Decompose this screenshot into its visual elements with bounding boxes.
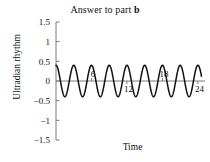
x-tick-label: 24	[195, 84, 205, 94]
x-tick-label: 6	[91, 69, 96, 79]
y-tick-label: 1	[46, 37, 51, 47]
y-tick-label: −1.5	[34, 135, 51, 145]
x-tick-label: 18	[159, 69, 169, 79]
y-tick-label: 0	[46, 76, 51, 86]
y-tick-label: 1.5	[39, 17, 51, 27]
y-tick-label: −1	[40, 116, 50, 126]
chart-figure: Answer to part b Ultradian rhythm Time 6…	[0, 0, 210, 162]
x-tick-label: 12	[124, 84, 133, 94]
plot-area: 6121824 1.510.50−0.5−1−1.5	[0, 0, 210, 162]
y-tick-labels: 1.510.50−0.5−1−1.5	[34, 17, 51, 145]
y-tick-label: −0.5	[34, 96, 51, 106]
y-tick-label: 0.5	[39, 57, 51, 67]
